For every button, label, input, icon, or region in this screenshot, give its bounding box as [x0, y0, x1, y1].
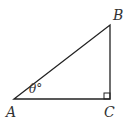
angle-label-theta: θ° — [29, 82, 42, 96]
triangle-diagram: B A C θ° — [0, 0, 129, 123]
vertex-label-c: C — [104, 104, 115, 120]
vertex-label-a: A — [4, 104, 16, 120]
right-angle-marker — [104, 93, 110, 99]
vertex-label-b: B — [112, 7, 123, 23]
